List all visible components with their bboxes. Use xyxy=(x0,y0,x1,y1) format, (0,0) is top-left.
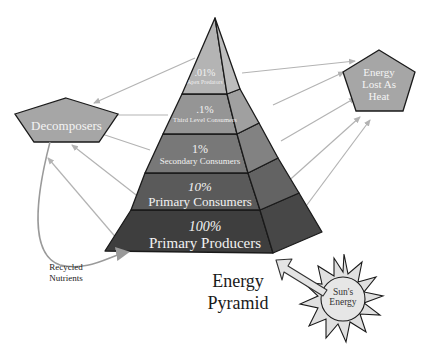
level-name: Primary Producers xyxy=(140,236,270,251)
level-percent: 100% xyxy=(140,220,270,234)
level-percent: .01% xyxy=(180,68,230,78)
level-primary-consumers-label: 10% Primary Consumers xyxy=(140,180,260,208)
level-percent: 1% xyxy=(145,143,255,155)
sun-label-line2: Energy xyxy=(321,297,365,307)
level-apex-predators-label: .01% Apex Predators xyxy=(180,68,230,86)
recycled-line1: Recycled xyxy=(42,262,90,273)
sun-label-line1: Sun's xyxy=(321,287,365,297)
heat-label: Energy Lost As Heat xyxy=(345,66,413,102)
level-third-level-consumers-label: .1% Third Level Consumers xyxy=(165,104,245,124)
level-name: Apex Predators xyxy=(180,80,230,86)
decomposers-label: Decomposers xyxy=(15,119,118,133)
level-secondary-consumers-label: 1% Secondary Consumers xyxy=(145,143,255,166)
level-percent: 10% xyxy=(140,180,260,193)
title-line1: Energy xyxy=(188,271,288,293)
recycled-line2: Nutrients xyxy=(42,273,90,284)
diagram-title: Energy Pyramid xyxy=(188,271,288,314)
heat-label-line1: Energy xyxy=(345,66,413,78)
level-primary-producers-label: 100% Primary Producers xyxy=(140,220,270,251)
level-name: Secondary Consumers xyxy=(145,157,255,166)
heat-label-line2: Lost As xyxy=(345,78,413,90)
energy-pyramid-diagram: 100% Primary Producers 10% Primary Consu… xyxy=(0,0,428,356)
sun-label: Sun's Energy xyxy=(321,287,365,308)
recycled-nutrients-label: Recycled Nutrients xyxy=(42,262,90,285)
level-name: Primary Consumers xyxy=(140,195,260,208)
level-percent: .1% xyxy=(165,104,245,115)
title-line2: Pyramid xyxy=(188,293,288,315)
heat-label-line3: Heat xyxy=(345,90,413,102)
level-name: Third Level Consumers xyxy=(165,117,245,124)
